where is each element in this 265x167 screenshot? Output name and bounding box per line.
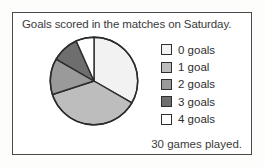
legend-swatch-icon xyxy=(161,96,172,107)
legend-item-label: 2 goals xyxy=(178,78,215,90)
legend-swatch-icon xyxy=(161,79,172,90)
legend-swatch-icon xyxy=(161,62,172,73)
legend-swatch-icon xyxy=(161,114,172,125)
legend-item-label: 4 goals xyxy=(178,113,215,125)
figure-frame: Goals scored in the matches on Saturday.… xyxy=(12,12,252,155)
legend-item-label: 0 goals xyxy=(178,44,215,56)
legend-item: 4 goals xyxy=(161,111,245,128)
legend-item: 2 goals xyxy=(161,76,245,93)
legend-item: 1 goal xyxy=(161,58,245,75)
pie-chart-svg xyxy=(48,35,140,127)
pie-chart xyxy=(48,35,140,127)
chart-title: Goals scored in the matches on Saturday. xyxy=(22,18,231,30)
figure-background: Goals scored in the matches on Saturday.… xyxy=(0,0,265,167)
games-played-note: 30 games played. xyxy=(151,138,242,150)
legend-item: 0 goals xyxy=(161,41,245,58)
legend: 0 goals1 goal2 goals3 goals4 goals xyxy=(161,41,245,128)
legend-item-label: 3 goals xyxy=(178,96,215,108)
legend-item: 3 goals xyxy=(161,93,245,110)
legend-swatch-icon xyxy=(161,44,172,55)
legend-item-label: 1 goal xyxy=(178,61,209,73)
